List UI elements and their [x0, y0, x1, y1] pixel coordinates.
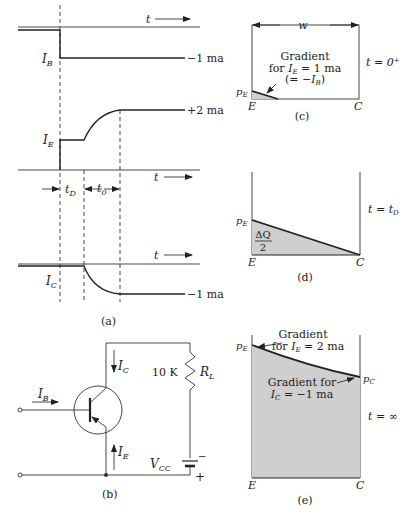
gradient-pointer: [267, 84, 276, 93]
ie-final-value: +2 ma: [187, 104, 224, 117]
resistor-name: RL: [199, 365, 214, 381]
panel-e-caption: (e): [297, 494, 312, 507]
load-resistor: [185, 352, 195, 458]
ib-time-label: t: [146, 13, 151, 26]
ic-time-label: t: [154, 249, 159, 262]
ic-label: IC: [45, 274, 57, 290]
width-label: w: [298, 19, 308, 32]
emitter-lead-arrow: [92, 417, 106, 427]
ie-waveform: t IE +2 ma: [18, 104, 224, 184]
ie-time-label: t: [154, 171, 159, 184]
battery-plus: +: [195, 470, 205, 484]
ib-circuit-label: IB: [37, 387, 49, 403]
transistor-switching-figure: t IB −1 ma t IE +2 ma tD t0 t: [0, 0, 404, 512]
panel-c-caption: (c): [295, 110, 310, 123]
charge-numerator: ΔQ: [255, 229, 270, 240]
pe-label: pE: [236, 86, 248, 99]
charge-denominator: 2: [260, 242, 266, 253]
pc-label: pC: [363, 373, 375, 386]
ic-final-value: −1 ma: [187, 288, 224, 301]
vcc-battery: − + VCC: [150, 451, 206, 484]
vcc-label: VCC: [150, 457, 171, 473]
gradient-text-3: (= −IB): [285, 73, 325, 87]
td-label: tD: [65, 183, 76, 198]
time-label: t = ∞: [368, 410, 398, 423]
ic-waveform: t IC −1 ma: [18, 249, 224, 301]
t0-label: t0: [97, 182, 107, 197]
ie-trace: [60, 110, 185, 170]
ie-circuit-label: IE: [117, 445, 129, 461]
time-label: t = 0⁺: [366, 56, 400, 69]
panel-a-waveforms: t IB −1 ma t IE +2 ma tD t0 t: [18, 5, 224, 328]
interval-markers: tD t0: [42, 182, 119, 198]
ic-trace: [18, 266, 185, 294]
ie-label: IE: [42, 133, 54, 149]
junction-dot: [104, 473, 108, 477]
pnp-transistor-symbol: [72, 386, 122, 434]
panel-a-caption: (a): [101, 315, 116, 328]
emitter-gradient-text-2: for IE = 2 ma: [272, 340, 345, 354]
pe-label: pE: [236, 215, 248, 228]
ib-waveform: t IB −1 ma: [18, 13, 224, 68]
collector-lead: [90, 388, 106, 403]
panel-b-circuit: IB IC IE 10 K RL − + VCC (b): [18, 343, 214, 501]
ground-terminal[interactable]: [18, 473, 22, 477]
battery-minus: −: [198, 451, 206, 462]
panel-e-profile: Gradient for IE = 2 ma Gradient for IC =…: [236, 328, 398, 507]
time-label: t = tD: [368, 203, 399, 217]
pe-label: pE: [236, 340, 248, 353]
collector-edge-label: C: [354, 100, 363, 113]
panel-b-caption: (b): [102, 488, 118, 501]
emitter-edge-label: E: [247, 479, 256, 492]
collector-edge-label: C: [356, 256, 365, 269]
panel-d-caption: (d): [297, 271, 313, 284]
panel-d-profile: pE ΔQ 2 E C t = tD (d): [236, 172, 399, 284]
collector-edge-label: C: [356, 479, 365, 492]
emitter-edge-label: E: [247, 256, 256, 269]
ib-final-value: −1 ma: [187, 52, 224, 65]
panel-c-profile: w Gradient for IE = 1 ma (= −IB) pE E C …: [236, 19, 400, 123]
emitter-edge-label: E: [247, 100, 256, 113]
base-terminal[interactable]: [18, 408, 22, 412]
resistor-value: 10 K: [152, 366, 178, 379]
ib-label: IB: [41, 52, 53, 68]
charge-region: [252, 345, 360, 478]
ic-circuit-label: IC: [117, 359, 129, 375]
